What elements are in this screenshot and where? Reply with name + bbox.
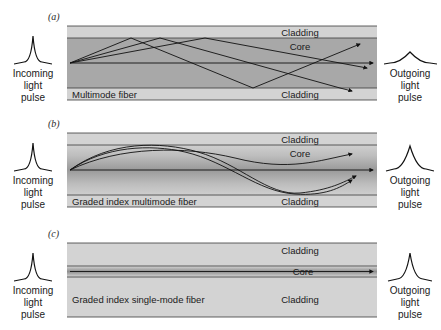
panel-a-outgoing-label-line-1: Outgoing (390, 68, 431, 79)
panel-c-core-label: Core (293, 266, 314, 277)
panel-a-incoming-label-line-1: Incoming (13, 68, 54, 79)
panel-c-incoming-label-line-3: pulse (21, 309, 45, 320)
panel-b-incoming-label-line-2: light (24, 187, 43, 198)
panel-c-fiber-name: Graded index single-mode fiber (72, 294, 205, 305)
panel-c-cladding-fill (67, 243, 377, 317)
panel-c-incoming-label-line-1: Incoming (13, 285, 54, 296)
panel-c-cladding-bottom-label: Cladding (281, 294, 319, 305)
panel-c-outgoing-label-line-1: Outgoing (390, 285, 431, 296)
panel-c-letter: (c) (48, 228, 60, 240)
panel-a-core-label: Core (290, 41, 311, 52)
panel-c-incoming-label-line-2: light (24, 297, 43, 308)
panel-a-cladding-bottom-label: Cladding (281, 89, 319, 100)
panel-c-cladding-top-label: Cladding (281, 245, 319, 256)
panel-c-outgoing-label-line-2: light (401, 297, 420, 308)
panel-b-core-label: Core (290, 148, 311, 159)
panel-b-fiber-name: Graded index multimode fiber (72, 196, 197, 207)
panel-a-incoming-label-line-3: pulse (21, 92, 45, 103)
panel-b-incoming-label-line-3: pulse (21, 199, 45, 210)
panel-a-cladding-top-label: Cladding (281, 27, 319, 38)
panel-a-incoming-label-line-2: light (24, 80, 43, 91)
panel-b-cladding-bottom-label: Cladding (281, 196, 319, 207)
panel-b-outgoing-label-line-2: light (401, 187, 420, 198)
panel-a-outgoing-label-line-3: pulse (398, 92, 422, 103)
fiber-dispersion-figure: (a) Cladding Core Cladding Multimode fib… (0, 0, 441, 330)
panel-a-outgoing-label-line-2: light (401, 80, 420, 91)
panel-b-outgoing-label-line-1: Outgoing (390, 175, 431, 186)
panel-c-outgoing-label-line-3: pulse (398, 309, 422, 320)
panel-b-incoming-label-line-1: Incoming (13, 175, 54, 186)
panel-b-outgoing-label-line-3: pulse (398, 199, 422, 210)
panel-b-cladding-top-label: Cladding (281, 134, 319, 145)
panel-a-fiber-name: Multimode fiber (72, 89, 137, 100)
panel-c-fiber-body (67, 243, 377, 317)
panel-a-letter: (a) (48, 11, 60, 23)
panel-b-letter: (b) (48, 118, 60, 130)
